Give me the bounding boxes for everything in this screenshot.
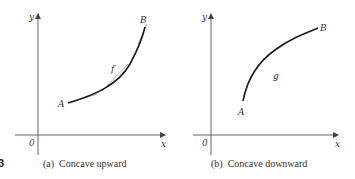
panel-b-point-A-label: A <box>237 107 245 117</box>
panel-b-curve-label: g <box>273 71 279 81</box>
panel-a-curve-label: f <box>110 64 116 74</box>
panel-a-origin-label: 0 <box>29 138 35 148</box>
concavity-figure: y x 0 A B f (a) Concave upward 3 y x 0 A… <box>0 0 355 179</box>
panel-b-concave-downward: y x 0 A B g (b) Concave downward <box>193 12 340 170</box>
panel-a-concave-upward: y x 0 A B f (a) Concave upward <box>15 12 166 170</box>
panel-a-caption: (a) Concave upward <box>43 158 127 170</box>
panel-b-y-label: y <box>201 12 208 22</box>
panel-a-point-A-label: A <box>57 99 65 109</box>
panel-a-y-label: y <box>28 12 35 22</box>
panel-b-origin-label: 0 <box>202 138 208 148</box>
panel-b-curve-g <box>243 28 318 101</box>
panel-b-point-B-label: B <box>319 23 327 33</box>
panel-a-curve-f <box>68 27 145 103</box>
panel-a-point-B-label: B <box>139 15 147 25</box>
panel-a-x-label: x <box>161 139 166 149</box>
panel-b-caption: (b) Concave downward <box>211 158 307 170</box>
panel-b-x-label: x <box>335 139 340 149</box>
figure-number-fragment: 3 <box>0 157 4 169</box>
